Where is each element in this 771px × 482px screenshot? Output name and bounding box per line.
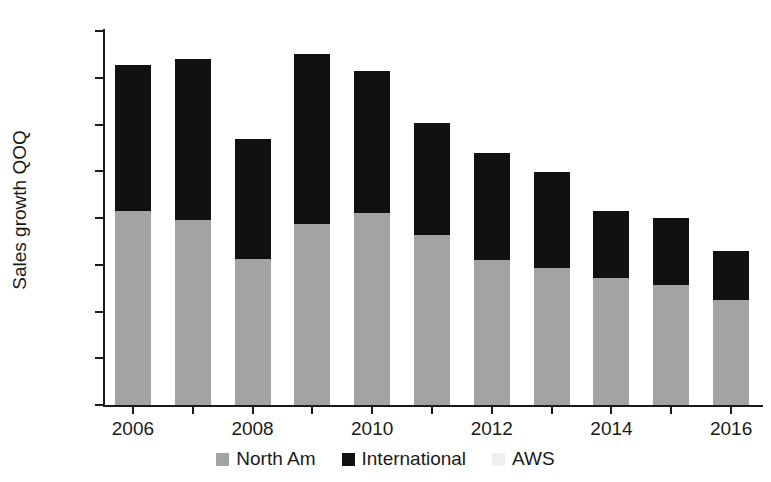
x-axis-tick [132, 405, 134, 414]
legend-swatch-icon [342, 453, 355, 466]
x-axis-tick [491, 405, 493, 414]
legend-swatch-icon [216, 453, 229, 466]
x-axis-tick [670, 405, 672, 414]
x-axis-tick [730, 405, 732, 414]
bar-segment-north-am [294, 224, 330, 405]
legend-label: International [362, 448, 467, 470]
legend-item-north-am[interactable]: North Am [216, 448, 315, 470]
bar-2016[interactable] [713, 31, 749, 405]
y-axis-tick [95, 264, 103, 266]
y-axis-tick [95, 30, 103, 32]
bar-segment-international [534, 172, 570, 268]
y-axis-tick [95, 404, 103, 406]
x-axis-tick [610, 405, 612, 414]
y-axis-tick [95, 311, 103, 313]
y-axis-title: Sales growth QOQ [2, 0, 38, 420]
x-axis-tick-label: 2014 [571, 418, 651, 440]
bar-segment-north-am [235, 259, 271, 405]
bar-segment-international [713, 251, 749, 301]
bar-2012[interactable] [474, 31, 510, 405]
bar-segment-north-am [534, 268, 570, 405]
x-axis-line [103, 405, 763, 407]
bar-segment-north-am [593, 278, 629, 405]
y-axis-tick [95, 124, 103, 126]
x-axis-tick-label: 2012 [452, 418, 532, 440]
bar-2010[interactable] [354, 31, 390, 405]
bar-2014[interactable] [593, 31, 629, 405]
legend-item-international[interactable]: International [342, 448, 467, 470]
bar-segment-international [175, 59, 211, 221]
y-axis-tick [95, 77, 103, 79]
x-axis-tick [551, 405, 553, 414]
bar-segment-north-am [414, 235, 450, 405]
bar-segment-north-am [115, 211, 151, 405]
legend-swatch-icon [492, 453, 505, 466]
sales-growth-stacked-bar-chart: Sales growth QOQ 0%10%20%30%40%50%60%70%… [0, 0, 771, 482]
x-axis-tick-label: 2016 [691, 418, 771, 440]
x-axis-tick-label: 2010 [332, 418, 412, 440]
bar-2013[interactable] [534, 31, 570, 405]
bar-segment-north-am [474, 260, 510, 405]
bar-2011[interactable] [414, 31, 450, 405]
bar-segment-international [474, 153, 510, 261]
y-axis-tick [95, 357, 103, 359]
bar-2009[interactable] [294, 31, 330, 405]
x-axis-tick [192, 405, 194, 414]
x-axis-tick [431, 405, 433, 414]
x-axis-tick [371, 405, 373, 414]
chart-legend: North AmInternationalAWS [0, 448, 771, 470]
bar-2015[interactable] [653, 31, 689, 405]
bar-2007[interactable] [175, 31, 211, 405]
bar-segment-north-am [653, 285, 689, 405]
y-axis-tick [95, 170, 103, 172]
plot-area [103, 31, 761, 405]
bar-segment-international [653, 218, 689, 285]
x-axis-tick [252, 405, 254, 414]
bar-segment-north-am [713, 300, 749, 405]
bar-segment-north-am [354, 213, 390, 405]
y-axis-tick [95, 217, 103, 219]
bar-segment-international [294, 54, 330, 224]
bar-segment-international [235, 139, 271, 260]
y-axis-title-text: Sales growth QOQ [9, 130, 31, 289]
bar-segment-international [354, 71, 390, 214]
x-axis-tick-label: 2008 [213, 418, 293, 440]
x-axis-tick [311, 405, 313, 414]
legend-label: North Am [236, 448, 315, 470]
legend-item-aws[interactable]: AWS [492, 448, 555, 470]
x-axis-tick-label: 2006 [93, 418, 173, 440]
legend-label: AWS [512, 448, 555, 470]
bar-2006[interactable] [115, 31, 151, 405]
bar-segment-international [593, 211, 629, 278]
bar-segment-international [115, 65, 151, 211]
bar-segment-international [414, 123, 450, 235]
bar-2008[interactable] [235, 31, 271, 405]
bar-segment-north-am [175, 220, 211, 405]
